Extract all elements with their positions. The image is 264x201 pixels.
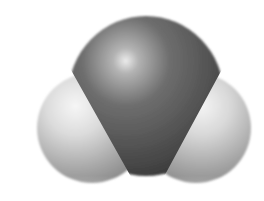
water-molecule-illustration	[0, 0, 264, 201]
bottom-fade	[0, 100, 264, 201]
molecule-figure: space-filling model of a water molecule	[0, 0, 264, 201]
